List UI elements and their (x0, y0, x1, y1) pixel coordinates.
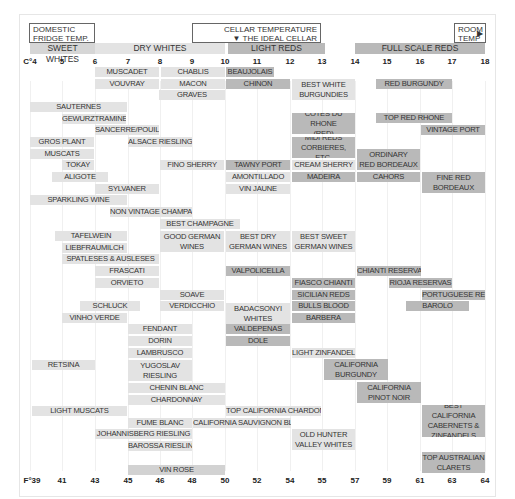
bar-sparkling-wine: SPARKLING WINE (30, 195, 127, 205)
bar-amontillado: AMONTILLADO (226, 172, 290, 182)
tick-f: 64 (481, 476, 490, 485)
room-line2-wrap: TEMP▶ (458, 34, 482, 43)
group-light-reds: LIGHT REDS (228, 43, 325, 54)
bar-top-california-chardonnays: TOP CALIFORNIA CHARDONNAYS (226, 406, 321, 416)
cellar-temp-label: CELLAR TEMPERATURE ▼ THE IDEAL CELLAR (192, 23, 321, 43)
tick-f: 63 (448, 476, 457, 485)
bar-chablis: CHABLIS (161, 67, 225, 77)
label-line: ZINFANDELS (422, 431, 485, 437)
bar-chardonnay: CHARDONNAY (128, 395, 225, 405)
tick-c: 14 (351, 57, 360, 66)
arrow-right-icon: ▶ (477, 29, 483, 38)
cellar-line2: ▼ THE IDEAL CELLAR (196, 34, 317, 43)
label-line: CALIFORNIA (334, 360, 378, 370)
tick-c: 13 (318, 57, 327, 66)
tick-c: 9 (190, 57, 194, 66)
bar-cahors: CAHORS (357, 172, 420, 182)
bar-yugoslav-riesling: YUGOSLAVRIESLING (128, 360, 192, 381)
bar-badacsonyi-whites: BADACSONYIWHITES (226, 303, 290, 324)
tick-c: 10 (221, 57, 230, 66)
bar-top-australian-clarets: TOP AUSTRALIANCLARETS (422, 452, 485, 473)
tick-c: 8 (158, 57, 162, 66)
bar-best-dry-german-wines: BEST DRYGERMAN WINES (226, 231, 290, 252)
bar-sicilian-reds: SICILIAN REDS (292, 290, 355, 300)
bar-good-german-wines: GOOD GERMANWINES (160, 231, 224, 252)
label-line: CABERNETS & (422, 421, 485, 431)
tick-c: 17 (448, 57, 457, 66)
bar-vin-jaune: VIN JAUNE (226, 184, 290, 194)
bar-top-red-rhone: TOP RED RHONE (376, 113, 452, 123)
fridge-temp-label: DOMESTIC FRIDGE TEMP. (29, 23, 95, 43)
group-full-scale-reds: FULL SCALE REDS (355, 43, 485, 54)
tick-f: 50 (221, 476, 230, 485)
tick-c: 18 (481, 57, 490, 66)
tick-f: 41 (58, 476, 67, 485)
label-line: BEST WHITE (299, 80, 348, 90)
bar-best-white-burgundies: BEST WHITEBURGUNDIES (292, 79, 355, 100)
bar-retsina: RETSINA (32, 360, 95, 370)
bar-fine-red-bordeaux: FINE REDBORDEAUX (422, 172, 485, 193)
bar-midi-reds: MIDI REDSCORBIERES, ETC. (292, 137, 355, 158)
gridline (387, 81, 388, 471)
bar-chianti-reservas: CHIANTI RESERVAS (357, 266, 421, 276)
tick-c: 5 (60, 57, 64, 66)
tick-f: 57 (351, 476, 360, 485)
fridge-line1: DOMESTIC (33, 25, 91, 34)
label-line: FINE RED (433, 173, 474, 183)
label-line: (RED) (292, 129, 355, 135)
bar-gewurztraminer: GEWURZTRAMINER (62, 114, 126, 124)
label-line: CLARETS (423, 463, 485, 473)
label-line: BURGUNDY (334, 370, 378, 380)
label-line: GERMAN WINES (295, 242, 353, 252)
bar-fiasco-chianti: FIASCO CHIANTI (292, 278, 355, 288)
label-line: WHITES (234, 314, 282, 324)
bar-red-burgundy: RED BURGUNDY (376, 79, 452, 89)
bar-best-champagne: BEST CHAMPAGNE (160, 219, 240, 229)
label-line: OLD HUNTER (295, 430, 352, 440)
bar-vintage-port: VINTAGE PORT (421, 125, 485, 135)
bar-alsace-riesling: ALSACE RIESLING (128, 137, 192, 147)
tick-f: 45 (124, 476, 133, 485)
bar-bulls-blood: BULLS BLOOD (292, 301, 355, 311)
bar-dorin: DORIN (128, 336, 192, 346)
bar-lambrusco: LAMBRUSCO (128, 348, 192, 358)
bar-johannisberg-riesling: JOHANNISBERG RIESLING (95, 429, 192, 439)
tick-f: 61 (416, 476, 425, 485)
tick-f: 59 (383, 476, 392, 485)
cellar-line1: CELLAR TEMPERATURE (196, 25, 317, 34)
bar-non-vintage-champagne: NON VINTAGE CHAMPAGNE (110, 207, 192, 217)
fridge-line2: FRIDGE TEMP. (33, 34, 91, 43)
bar-liebfraumilch: LIEBFRAUMILCH (62, 243, 127, 253)
bar-light-zinfandels: LIGHT ZINFANDELS (292, 348, 355, 358)
gridline (420, 81, 421, 471)
label-line: COTES DU RHONE (292, 113, 355, 129)
bar-orvieto: ORVIETO (95, 278, 159, 288)
bar-cream-sherry: CREAM SHERRY (292, 160, 355, 170)
label-line: ORDINARY (359, 150, 417, 160)
bar-vouvray: VOUVRAY (95, 79, 159, 89)
bar-fino-sherry: FINO SHERRY (160, 160, 224, 170)
group-sweet-whites: SWEET WHITES (30, 43, 95, 54)
bar-light-muscats: LIGHT MUSCATS (32, 406, 127, 416)
bar-best-california-cabernets: BEST CALIFORNIACABERNETS &ZINFANDELS (422, 405, 485, 437)
bar-tokay: TOKAY (62, 160, 94, 170)
tick-f: 54 (286, 476, 295, 485)
bar-california-pinot-noir: CALIFORNIAPINOT NOIR (357, 382, 421, 403)
bar-barolo: BAROLO (406, 301, 469, 311)
tick-f: 55 (318, 476, 327, 485)
tick-f: 46 (156, 476, 165, 485)
gridline (192, 81, 193, 471)
bar-frascati: FRASCATI (95, 266, 159, 276)
bar-chenin-blanc: CHENIN BLANC (128, 383, 225, 393)
bar-beaujolais: BEAUJOLAIS (226, 67, 274, 77)
tick-c: 15 (383, 57, 392, 66)
label-line: PINOT NOIR (367, 393, 411, 403)
label-line: RIESLING (140, 371, 180, 381)
bar-sauternes: SAUTERNES (30, 102, 127, 112)
bar-chinon: CHINON (226, 79, 290, 89)
bar-california-sauvignon-blanc: CALIFORNIA SAUVIGNON BLANC (193, 418, 291, 428)
label-line: YUGOSLAV (140, 361, 180, 371)
tick-c: C°4 (23, 57, 36, 66)
bar-sylvaner: SYLVANER (95, 184, 159, 194)
bar-muscadet: MUSCADET (95, 67, 159, 77)
